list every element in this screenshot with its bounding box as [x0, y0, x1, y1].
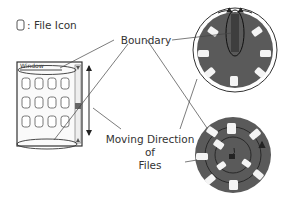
diagram-canvas: : File Icon Window [0, 0, 288, 204]
spiral-view-panel [195, 117, 271, 193]
legend: : File Icon [17, 19, 77, 31]
moving-direction-label-files: Files [138, 159, 161, 171]
moving-direction-label-of: of [145, 146, 155, 158]
boundary-label: Boundary [121, 34, 172, 46]
file-icon [17, 20, 24, 30]
legend-label: : File Icon [27, 19, 77, 31]
circular-view-panel [193, 8, 277, 92]
window-label: Window [20, 62, 44, 69]
moving-direction-label: Moving Direction [106, 133, 195, 145]
scrolling-window-panel: Window [17, 62, 89, 149]
